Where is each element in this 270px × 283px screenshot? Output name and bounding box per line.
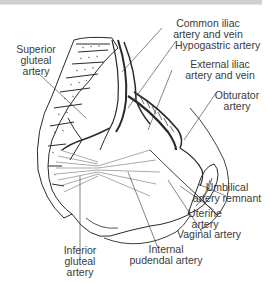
label-line: Vaginal artery <box>168 229 250 240</box>
label-line: artery and vein <box>172 70 268 81</box>
label-line: Hypogastric artery <box>175 40 270 51</box>
label-line: artery <box>7 66 65 77</box>
label-umbilical-artery-remnant: Umbilical artery remnant <box>186 182 268 204</box>
label-uterine-artery: Uterine artery <box>182 208 228 230</box>
label-common-iliac-artery-vein: Common iliac artery and vein <box>160 18 256 40</box>
label-inferior-gluteal-artery: Inferior gluteal artery <box>54 245 106 278</box>
label-line: artery remnant <box>186 193 268 204</box>
label-internal-pudendal-artery: Internal pudendal artery <box>124 244 208 266</box>
label-superior-gluteal-artery: Superior gluteal artery <box>7 44 65 77</box>
label-line: pudendal artery <box>124 255 208 266</box>
label-line: artery <box>208 101 266 112</box>
label-hypogastric-artery: Hypogastric artery <box>175 40 270 51</box>
label-line: artery <box>54 267 106 278</box>
label-vaginal-artery: Vaginal artery <box>168 229 250 240</box>
label-obturator-artery: Obturator artery <box>208 90 266 112</box>
common-iliac-vessels <box>116 40 126 132</box>
label-external-iliac-artery-vein: External iliac artery and vein <box>172 59 268 81</box>
